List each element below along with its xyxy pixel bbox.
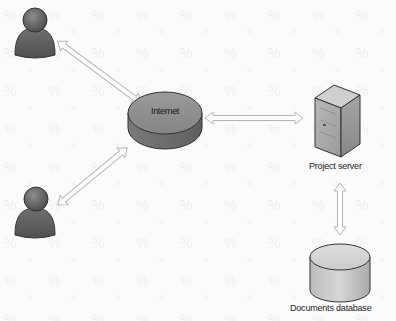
internet-disc-icon — [128, 92, 202, 149]
database-icon — [310, 244, 370, 302]
documents-database-label: Documents database — [290, 303, 371, 313]
project-server-label: Project server — [309, 161, 362, 171]
internet-label: Internet — [128, 106, 202, 116]
server-icon — [315, 85, 360, 157]
